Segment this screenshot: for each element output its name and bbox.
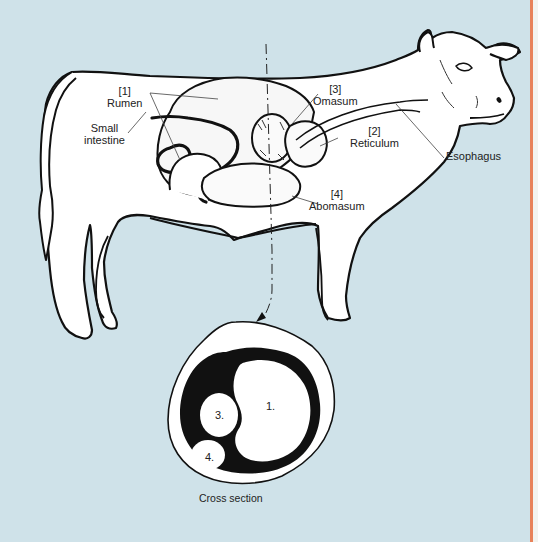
label-reticulum-name: Reticulum: [350, 137, 399, 149]
arrow-head-icon: [256, 312, 266, 322]
label-reticulum-number: [2]: [350, 125, 399, 137]
label-abomasum-name: Abomasum: [309, 200, 365, 212]
label-rumen-name: Rumen: [107, 97, 142, 109]
cross-section-label-1: 1.: [266, 400, 275, 412]
cross-section-label-3: 3.: [215, 409, 224, 421]
label-rumen-number: [1]: [107, 85, 142, 97]
label-omasum-name: Omasum: [313, 95, 358, 107]
label-esophagus: Esophagus: [446, 150, 501, 162]
label-rumen: [1] Rumen: [107, 85, 142, 109]
label-small-intestine-line1: Small: [84, 122, 125, 134]
calf-anatomy-illustration: [0, 0, 538, 542]
label-omasum: [3] Omasum: [313, 83, 358, 107]
cross-section-diagram: [168, 322, 334, 484]
label-reticulum: [2] Reticulum: [350, 125, 399, 149]
abomasum: [202, 164, 300, 207]
label-small-intestine: Small intestine: [84, 122, 125, 146]
cross-section-label-4: 4.: [205, 451, 214, 463]
cross-section-caption: Cross section: [199, 492, 263, 504]
label-esophagus-name: Esophagus: [446, 150, 501, 162]
label-abomasum: [4] Abomasum: [309, 188, 365, 212]
label-small-intestine-line2: intestine: [84, 134, 125, 146]
label-abomasum-number: [4]: [309, 188, 365, 200]
label-omasum-number: [3]: [313, 83, 358, 95]
